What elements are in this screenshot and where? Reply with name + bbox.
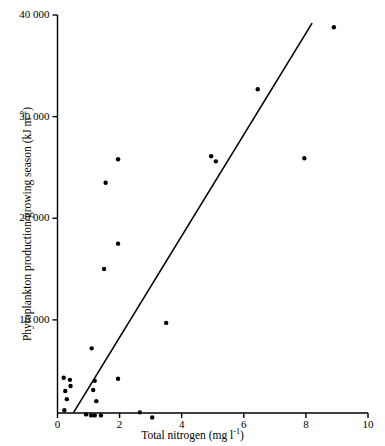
y-tick-label: 40 000 (0, 9, 50, 20)
data-points (62, 25, 337, 420)
x-axis-label: Total nitrogen (mg l-1) (0, 429, 385, 441)
data-point (99, 413, 103, 417)
x-axis-label-tail: ) (240, 429, 244, 441)
x-axis-label-base: Total nitrogen (mg l (141, 429, 233, 441)
scatter-plot-canvas (0, 0, 385, 446)
y-axis-label: Phytoplankton production/growing season … (21, 84, 33, 364)
y-axis-ticks (53, 15, 58, 320)
y-axis-label-tail: ) (21, 107, 33, 111)
data-point (89, 346, 93, 350)
regression-line (74, 23, 312, 412)
x-axis-ticks (58, 413, 369, 418)
data-point (62, 408, 66, 412)
data-point (68, 378, 72, 382)
y-axis-label-base: Phytoplankton production/growing season … (21, 117, 33, 341)
data-point (65, 397, 69, 401)
regression-line-segment (74, 23, 312, 412)
data-point (302, 156, 306, 160)
data-point (68, 384, 72, 388)
chart-figure: 10 00020 00030 00040 000 0246810 Total n… (0, 0, 385, 446)
data-point (91, 388, 95, 392)
y-axis-label-exponent: -2 (19, 111, 28, 118)
data-point (62, 376, 66, 380)
data-point (116, 241, 120, 245)
data-point (150, 415, 154, 419)
plot-axes (58, 15, 369, 413)
data-point (138, 410, 142, 414)
data-point (63, 389, 67, 393)
data-point (84, 412, 88, 416)
x-axis-label-exponent: -1 (233, 427, 240, 436)
data-point (94, 399, 98, 403)
data-point (256, 87, 260, 91)
data-point (116, 157, 120, 161)
data-point (116, 377, 120, 381)
data-point (102, 267, 106, 271)
data-point (93, 413, 97, 417)
data-point (93, 379, 97, 383)
data-point (103, 180, 107, 184)
data-point (209, 154, 213, 158)
data-point (214, 159, 218, 163)
data-point (332, 25, 336, 29)
data-point (164, 321, 168, 325)
